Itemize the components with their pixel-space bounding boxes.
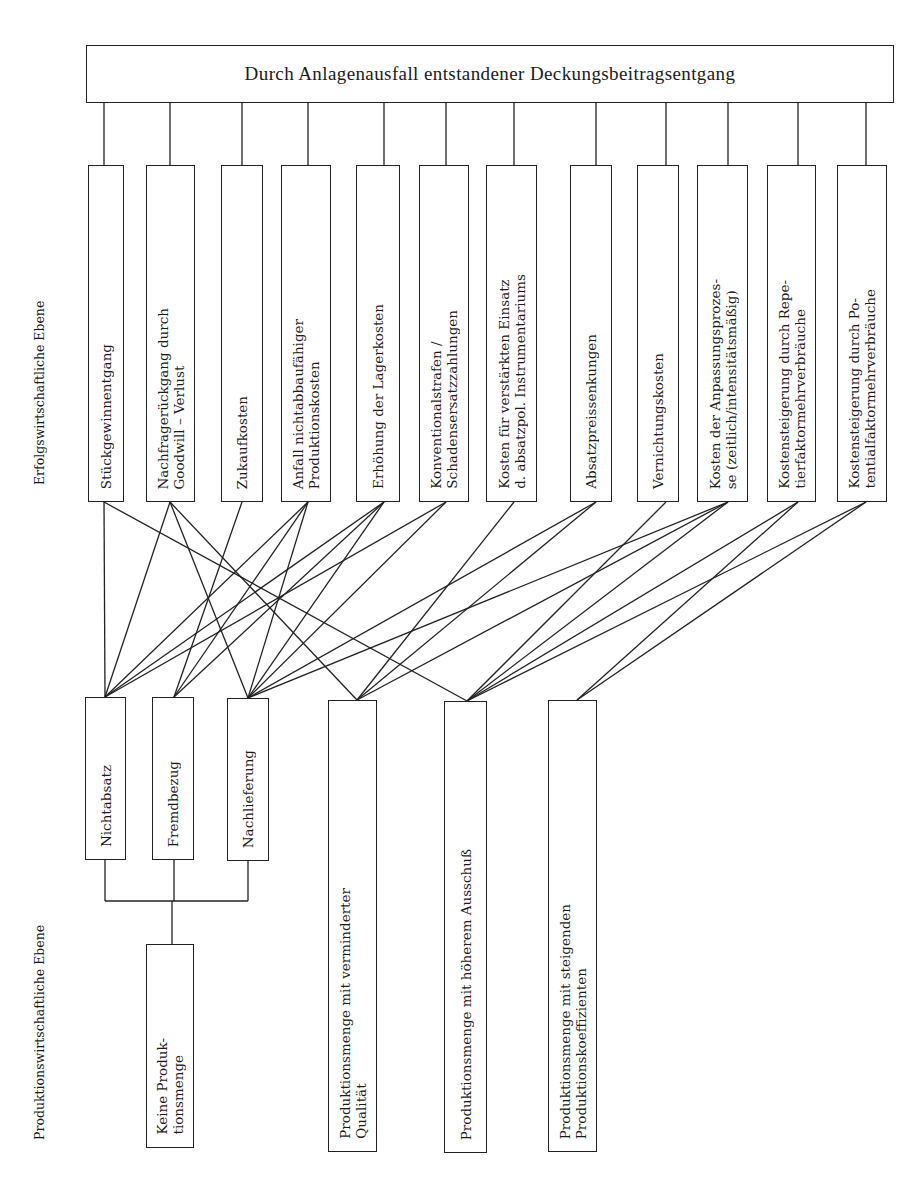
connection-t3-b2 xyxy=(174,502,242,697)
top-box-12-label: Kostensteigerung durch Po- tentialfaktor… xyxy=(846,289,878,489)
top-box-6: Konventionalstrafen / Schadensersatzzahl… xyxy=(419,165,469,502)
top-box-5-label: Erhöhung der Lagerkosten xyxy=(370,304,386,489)
connection-t11-b5 xyxy=(467,502,798,701)
top-box-10: Kosten der Anpassungsprozes- se (zeitlic… xyxy=(697,165,748,502)
top-box-3-label: Zukaufkosten xyxy=(234,396,250,489)
bottom-box-5: Produktionsmenge mit höherem Ausschuß xyxy=(444,701,487,1153)
connection-t12-b5 xyxy=(467,502,866,701)
bottom-box-2-label: Fremdbezug xyxy=(165,761,181,847)
connection-t7-b4 xyxy=(357,502,514,700)
diagram-canvas: Durch Anlagenausfall entstandener Deckun… xyxy=(0,0,913,1185)
bottom-box-3: Nachlieferung xyxy=(227,698,269,861)
connection-t2-b1 xyxy=(105,502,170,697)
bottom-box-3-label: Nachlieferung xyxy=(240,750,256,848)
bottom-box-2: Fremdbezug xyxy=(152,697,194,860)
bottom-box-1-label: Nichtabsatz xyxy=(98,765,114,847)
top-box-2: Nachfragerückgang durch Goodwill – Verlu… xyxy=(146,165,195,502)
top-box-10-label: Kosten der Anpassungsprozes- se (zeitlic… xyxy=(707,279,739,489)
top-box-5: Erhöhung der Lagerkosten xyxy=(356,165,400,502)
connection-t2-b3 xyxy=(170,502,248,698)
bottom-box-1: Nichtabsatz xyxy=(85,697,126,860)
top-box-4-label: Anfall nichtabbaufähiger Produktionskost… xyxy=(290,319,322,489)
top-box-6-label: Konventionalstrafen / Schadensersatzzahl… xyxy=(428,310,460,489)
top-box-8-label: Absatzpreissenkungen xyxy=(583,334,599,489)
connection-t9-b5 xyxy=(467,502,666,701)
bottom-box-4: Produktionsmenge mit verminderter Qualit… xyxy=(328,700,377,1152)
header-box: Durch Anlagenausfall entstandener Deckun… xyxy=(86,45,894,103)
top-box-11: Kostensteigerung durch Repe- tierfaktorm… xyxy=(767,165,816,502)
connection-t12-b6 xyxy=(577,502,866,700)
connection-t10-b3 xyxy=(248,502,728,698)
connection-t5-b3 xyxy=(248,502,384,698)
connection-t11-b6 xyxy=(577,502,798,700)
level-label-upper: Erfolgswirtschaftliche Ebene xyxy=(32,265,47,485)
bottom-box-4-label: Produktionsmenge mit verminderter Qualit… xyxy=(337,888,369,1139)
connection-t1-b1 xyxy=(104,502,105,697)
top-box-12: Kostensteigerung durch Po- tentialfaktor… xyxy=(837,165,887,502)
connection-t2-b4 xyxy=(170,502,357,700)
bottom-box-5-label: Produktionsmenge mit höherem Ausschuß xyxy=(458,849,474,1140)
top-box-2-label: Nachfragerückgang durch Goodwill – Verlu… xyxy=(155,308,187,490)
bottom-box-7-label: Keine Produk- tionsmenge xyxy=(154,1038,186,1135)
top-box-7-label: Kosten für verstärkten Einsatz d. absatz… xyxy=(496,274,528,489)
bottom-box-6: Produktionsmenge mit steigenden Produkti… xyxy=(548,700,597,1152)
bottom-box-7: Keine Produk- tionsmenge xyxy=(146,944,194,1148)
top-box-9: Vernichtungskosten xyxy=(637,165,679,502)
top-box-1: Stückgewinnentgang xyxy=(88,165,124,502)
connection-t5-b1 xyxy=(105,502,384,697)
top-box-1-label: Stückgewinnentgang xyxy=(98,344,114,489)
top-box-11-label: Kostensteigerung durch Repe- tierfaktorm… xyxy=(776,280,808,489)
top-box-7: Kosten für verstärkten Einsatz d. absatz… xyxy=(486,165,537,502)
connection-t10-b5 xyxy=(467,502,728,701)
bottom-box-6-label: Produktionsmenge mit steigenden Produkti… xyxy=(557,904,589,1139)
level-label-lower: Produktionswirtschaftliche Ebene xyxy=(32,880,47,1140)
connection-t1-b5 xyxy=(104,502,467,701)
top-box-4: Anfall nichtabbaufähiger Produktionskost… xyxy=(281,165,331,502)
top-box-8: Absatzpreissenkungen xyxy=(570,165,612,502)
top-box-9-label: Vernichtungskosten xyxy=(650,353,666,489)
top-box-3: Zukaufkosten xyxy=(221,165,263,502)
connection-t4-b2 xyxy=(174,502,308,697)
header-title: Durch Anlagenausfall entstandener Deckun… xyxy=(245,63,736,85)
